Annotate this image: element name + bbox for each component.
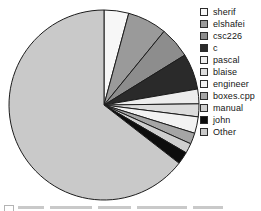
artifact-text-fragment bbox=[193, 206, 223, 209]
legend-swatch-icon bbox=[200, 128, 208, 136]
artifact-text-fragment bbox=[137, 206, 187, 209]
cropped-caption-artifact bbox=[0, 203, 261, 211]
legend-item-engineer[interactable]: engineer bbox=[200, 78, 261, 90]
legend-item-label: pascal bbox=[213, 55, 240, 65]
legend-item-other[interactable]: Other bbox=[200, 126, 261, 138]
legend-swatch-icon bbox=[200, 44, 208, 52]
legend-swatch-icon bbox=[200, 80, 208, 88]
pie-plot-area bbox=[6, 6, 202, 204]
legend-swatch-icon bbox=[200, 32, 208, 40]
legend-item-elshafei[interactable]: elshafei bbox=[200, 18, 261, 30]
legend-item-john[interactable]: john bbox=[200, 114, 261, 126]
chart-legend: sherifelshafeicsc226cpascalblaiseenginee… bbox=[200, 6, 261, 148]
legend-item-label: c bbox=[213, 43, 218, 53]
legend-item-label: csc226 bbox=[213, 31, 242, 41]
legend-item-label: manual bbox=[213, 103, 243, 113]
legend-item-label: john bbox=[213, 115, 230, 125]
legend-swatch-icon bbox=[200, 116, 208, 124]
legend-swatch-icon bbox=[200, 56, 208, 64]
legend-item-c[interactable]: c bbox=[200, 42, 261, 54]
legend-item-label: elshafei bbox=[213, 19, 245, 29]
legend-swatch-icon bbox=[200, 92, 208, 100]
legend-item-blaise[interactable]: blaise bbox=[200, 66, 261, 78]
pie-chart-figure: sherifelshafeicsc226cpascalblaiseenginee… bbox=[0, 0, 261, 211]
artifact-swatch bbox=[4, 205, 14, 211]
legend-item-label: sherif bbox=[213, 7, 236, 17]
legend-swatch-icon bbox=[200, 68, 208, 76]
pie-svg bbox=[6, 6, 202, 204]
artifact-text-fragment bbox=[98, 206, 131, 209]
legend-item-manual[interactable]: manual bbox=[200, 102, 261, 114]
legend-item-label: engineer bbox=[213, 79, 249, 89]
legend-item-label: blaise bbox=[213, 67, 237, 77]
legend-item-label: Other bbox=[213, 127, 236, 137]
legend-swatch-icon bbox=[200, 104, 208, 112]
legend-item-sherif[interactable]: sherif bbox=[200, 6, 261, 18]
legend-swatch-icon bbox=[200, 8, 208, 16]
legend-item-boxes-cpp[interactable]: boxes.cpp bbox=[200, 90, 261, 102]
legend-item-pascal[interactable]: pascal bbox=[200, 54, 261, 66]
artifact-text-fragment bbox=[50, 206, 92, 209]
pie-slice-group bbox=[9, 10, 199, 200]
legend-item-csc226[interactable]: csc226 bbox=[200, 30, 261, 42]
artifact-text-fragment bbox=[18, 206, 44, 209]
legend-swatch-icon bbox=[200, 20, 208, 28]
legend-item-label: boxes.cpp bbox=[213, 91, 255, 101]
